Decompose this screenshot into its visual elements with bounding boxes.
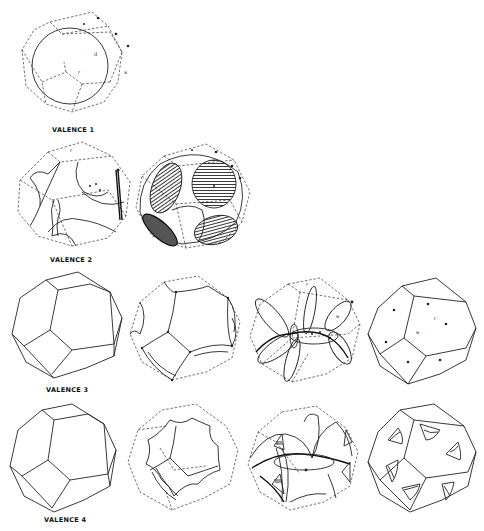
truncated-octahedron <box>12 272 122 378</box>
valence-2-hatched-contacts <box>130 138 254 250</box>
point-markers: d r a <box>78 17 129 75</box>
center-marker <box>305 469 308 472</box>
point-label: d <box>94 51 97 57</box>
row-label-valence-1: VALENCE 1 <box>52 126 94 134</box>
point-markers: r a <box>385 303 448 364</box>
valence-1-sphere-in-zone: d r a <box>12 4 132 116</box>
lens-and-pocket-surfaces <box>250 414 352 502</box>
fermi-sphere <box>32 28 108 104</box>
truncated-octahedron <box>10 404 116 512</box>
lens-surfaces <box>250 285 355 382</box>
hatched-contact-disk <box>192 160 236 208</box>
valence-3-zone-solid <box>10 270 122 382</box>
valence-4-zone-concave-faces <box>126 400 238 512</box>
triangular-pockets <box>386 424 461 500</box>
valence-4-zone-triangular-pockets <box>364 402 478 514</box>
zone-outline <box>22 12 122 112</box>
truncated-octahedron <box>368 404 476 512</box>
point-label: a <box>336 313 339 319</box>
zone-outline <box>130 276 240 380</box>
zone-outline <box>250 278 360 382</box>
shaded-contact-disk <box>138 209 181 250</box>
point-label: r <box>306 281 309 287</box>
point-label: r <box>70 147 73 153</box>
point-label: a <box>124 69 127 75</box>
row-label-valence-3: VALENCE 3 <box>46 386 88 394</box>
truncated-octahedron <box>368 278 476 384</box>
point-label: r <box>434 315 437 321</box>
valence-3-zone-with-points: r a <box>366 278 478 390</box>
hatched-contact-disk <box>144 159 188 217</box>
valence-4-zone-pockets-lenses <box>246 402 358 514</box>
fermi-surface-arcs <box>30 162 124 246</box>
point-label: r <box>78 69 81 75</box>
vertex-dots <box>141 291 233 381</box>
concave-fermi-surface <box>146 418 220 500</box>
row-label-valence-4: VALENCE 4 <box>44 516 86 524</box>
point-label: a <box>416 329 419 335</box>
valence-2-second-zone-holes: r <box>12 140 136 248</box>
valence-4-zone-solid <box>8 400 120 512</box>
point-markers: r <box>70 147 120 191</box>
hatched-contact-disk <box>191 211 241 249</box>
row-label-valence-2: VALENCE 2 <box>50 256 92 264</box>
zone-outline <box>128 404 238 510</box>
valence-3-zone-lens-surfaces: r a <box>248 274 360 386</box>
triangular-pockets <box>272 430 352 494</box>
zone-outline <box>248 406 358 510</box>
valence-3-zone-curved-edges <box>128 272 240 384</box>
